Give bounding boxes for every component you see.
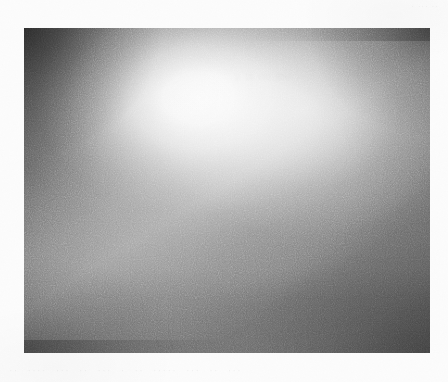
- grayscale-photograph: || ||| |||| |||||: [24, 28, 430, 353]
- bottom-margin-ghost-text: ·· ···· ··· ·· ··· · ·· ····· ··· ·· ···: [9, 365, 242, 376]
- photo-ghost-text-overlay: || ||| |||| |||||: [170, 70, 357, 83]
- scanned-page: · ··· ·· || ||| |||| ||||| ·· ···· ··· ·…: [0, 0, 448, 382]
- top-margin-ghost-text: · ··· ··: [411, 2, 439, 11]
